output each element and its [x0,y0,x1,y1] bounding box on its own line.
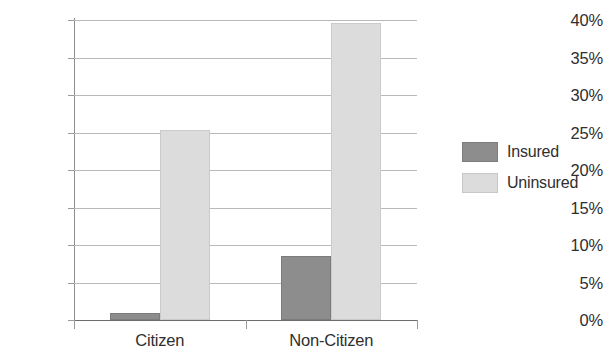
bar-citizen-uninsured [160,130,210,320]
legend-label-insured: Insured [507,144,559,160]
gridline-40% [74,20,417,21]
y-axis-label-15%: 15% [541,200,603,217]
bar-non-citizen-insured [281,256,331,320]
bar-chart: 0%5%10%15%20%25%30%35%40% CitizenNon-Cit… [0,0,603,363]
uninsured-swatch-icon [462,173,498,193]
y-axis-label-40%: 40% [541,12,603,29]
x-axis-label-non-citizen: Non-Citizen [246,331,418,349]
x-tick-end [417,320,418,329]
chart-legend: Insured Uninsured [462,136,578,198]
bar-non-citizen-uninsured [331,23,381,320]
y-axis-label-35%: 35% [541,50,603,67]
y-axis-label-0%: 0% [541,312,603,329]
legend-item-uninsured: Uninsured [462,167,578,198]
legend-label-uninsured: Uninsured [507,175,578,191]
x-tick-0 [74,320,75,329]
bar-citizen-insured [110,313,160,321]
y-axis-label-10%: 10% [541,237,603,254]
insured-swatch-icon [462,142,498,162]
y-axis-label-30%: 30% [541,87,603,104]
y-axis-label-5%: 5% [541,275,603,292]
x-axis-label-citizen: Citizen [74,331,246,349]
x-tick-1 [246,320,247,329]
legend-item-insured: Insured [462,136,578,167]
plot-area [74,20,417,320]
